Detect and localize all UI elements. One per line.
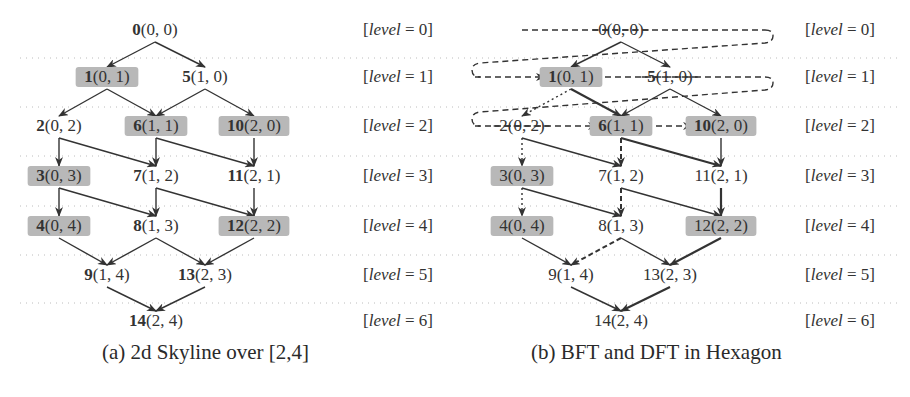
level-labels: [level = 0][level = 1][level = 2][level … — [363, 20, 433, 330]
node-coord: (2, 0) — [244, 116, 281, 135]
lattice-nodes: 0(0, 0)1(0, 1)5(1, 0)2(0, 2)6(1, 1)10(2,… — [28, 20, 290, 330]
node-coord: (1, 1) — [142, 116, 179, 135]
node-12: 12(2, 2) — [686, 216, 757, 236]
node-12: 12(2, 2) — [219, 216, 290, 236]
node-label: 13(2, 3) — [178, 265, 232, 284]
node-coord: (1, 3) — [607, 216, 644, 235]
node-id: 6 — [598, 116, 607, 135]
node-coord: (2, 2) — [711, 216, 748, 235]
node-label: 14(2, 4) — [594, 311, 648, 330]
node-8: 8(1, 3) — [598, 216, 643, 235]
figure-canvas: 0(0, 0)1(0, 1)5(1, 0)2(0, 2)6(1, 1)10(2,… — [0, 0, 910, 397]
edge-9-to-14 — [107, 287, 156, 311]
node-label: 6(1, 1) — [598, 116, 643, 135]
node-label: 11(2, 1) — [228, 166, 281, 185]
node-id: 2 — [36, 116, 45, 135]
node-coord: (1, 1) — [607, 116, 644, 135]
node-label: 4(0, 4) — [499, 216, 544, 235]
node-label: 9(1, 4) — [548, 265, 593, 284]
level-label-1: [level = 1] — [805, 67, 875, 86]
edge-0-to-1 — [107, 42, 155, 67]
node-coord: (1, 2) — [142, 166, 179, 185]
node-label: 11(2, 1) — [694, 166, 747, 185]
node-coord: (2, 1) — [711, 166, 748, 185]
node-id: 13 — [643, 265, 660, 284]
edge-1-to-2 — [522, 89, 571, 116]
node-label: 8(1, 3) — [133, 216, 178, 235]
node-coord: (0, 1) — [93, 67, 130, 86]
node-label: 7(1, 2) — [598, 166, 643, 185]
edge-5-to-6 — [621, 89, 670, 116]
level-label-0: [level = 0] — [805, 20, 875, 39]
node-id: 12 — [227, 216, 244, 235]
node-label: 5(1, 0) — [182, 67, 227, 86]
node-label: 12(2, 2) — [227, 216, 281, 235]
node-coord: (2, 3) — [195, 265, 232, 284]
level-label-4: [level = 4] — [805, 216, 875, 235]
edge-13-to-14 — [156, 287, 205, 311]
level-label-6: [level = 6] — [363, 311, 433, 330]
node-coord: (2, 1) — [244, 166, 281, 185]
node-coord: (1, 4) — [557, 265, 594, 284]
level-label-2: [level = 2] — [363, 116, 433, 135]
node-id: 14 — [594, 311, 612, 330]
level-label-1: [level = 1] — [363, 67, 433, 86]
node-3: 3(0, 3) — [28, 166, 91, 186]
node-coord: (0, 4) — [45, 216, 82, 235]
node-1: 1(0, 1) — [76, 67, 139, 87]
node-coord: (0, 1) — [557, 67, 594, 86]
node-id: 6 — [133, 116, 142, 135]
node-id: 11 — [694, 166, 710, 185]
node-label: 1(0, 1) — [548, 67, 593, 86]
edge-5-to-10 — [205, 89, 254, 116]
edge-7-to-12 — [156, 188, 254, 216]
node-14: 14(2, 4) — [129, 311, 183, 330]
edge-3-to-8 — [522, 188, 621, 216]
node-id: 14 — [129, 311, 147, 330]
node-label: 13(2, 3) — [643, 265, 697, 284]
edge-5-to-10 — [670, 89, 721, 116]
node-label: 0(0, 0) — [132, 20, 177, 39]
edge-5-to-6 — [156, 89, 205, 116]
level-label-5: [level = 5] — [363, 265, 433, 284]
node-0: 0(0, 0) — [132, 20, 177, 39]
level-label-0: [level = 0] — [363, 20, 433, 39]
caption-bft-dft: (b) BFT and DFT in Hexagon — [531, 340, 782, 365]
node-coord: (0, 3) — [508, 166, 545, 185]
node-0: 0(0, 0) — [593, 20, 650, 39]
edge-8-to-9 — [571, 238, 621, 265]
node-coord: (0, 2) — [45, 116, 82, 135]
node-coord: (1, 2) — [607, 166, 644, 185]
node-7: 7(1, 2) — [133, 166, 178, 185]
edge-1-to-6 — [571, 89, 621, 116]
node-label: 10(2, 0) — [227, 116, 281, 135]
node-coord: (1, 3) — [142, 216, 179, 235]
node-id: 10 — [227, 116, 244, 135]
node-label: 2(0, 2) — [36, 116, 81, 135]
node-13: 13(2, 3) — [643, 265, 697, 284]
node-label: 1(0, 1) — [84, 67, 129, 86]
edge-1-to-6 — [107, 89, 156, 116]
node-coord: (2, 4) — [146, 311, 183, 330]
node-id: 11 — [228, 166, 244, 185]
edge-2-to-7 — [522, 138, 621, 166]
node-7: 7(1, 2) — [598, 166, 643, 185]
node-id: 8 — [598, 216, 607, 235]
node-11: 11(2, 1) — [694, 166, 747, 185]
caption-skyline: (a) 2d Skyline over [2,4] — [102, 340, 309, 365]
node-id: 3 — [36, 166, 45, 185]
node-coord: (1, 4) — [93, 265, 130, 284]
level-labels: [level = 0][level = 1][level = 2][level … — [805, 20, 875, 330]
edge-6-to-11 — [621, 138, 721, 166]
node-id: 13 — [178, 265, 195, 284]
node-coord: (2, 2) — [244, 216, 281, 235]
node-9: 9(1, 4) — [548, 265, 593, 284]
node-2: 2(0, 2) — [494, 116, 551, 135]
node-label: 12(2, 2) — [694, 216, 748, 235]
level-label-2: [level = 2] — [805, 116, 875, 135]
node-id: 12 — [694, 216, 711, 235]
node-label: 14(2, 4) — [129, 311, 183, 330]
node-coord: (1, 0) — [191, 67, 228, 86]
edge-0-to-5 — [155, 42, 205, 67]
edge-6-to-11 — [156, 138, 254, 166]
